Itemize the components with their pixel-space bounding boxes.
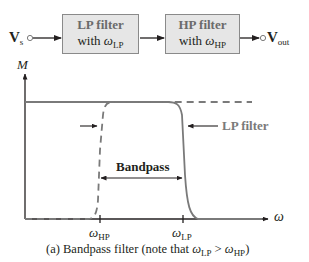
- tick-label-omega-lp: ωLP: [172, 225, 192, 242]
- input-label: Vs: [9, 29, 23, 47]
- figure-caption: (a) Bandpass filter (note that ωLP > ωHP…: [46, 242, 249, 258]
- output-terminal: [260, 35, 265, 40]
- lp-block-title: LP filter: [63, 17, 138, 33]
- lp-filter-annotation: LP filter: [222, 118, 269, 134]
- tick-label-omega-hp: ωHP: [89, 225, 110, 242]
- x-axis-label: ω: [274, 209, 284, 225]
- hp-filter-block: HP filter with ωHP: [165, 14, 240, 54]
- lp-block-param: with ωLP: [63, 33, 138, 53]
- lp-filter-block: LP filter with ωLP: [62, 14, 139, 54]
- input-terminal: [27, 35, 32, 40]
- bandpass-label: Bandpass: [116, 159, 169, 175]
- y-axis-label: M: [17, 57, 28, 73]
- output-label: Vout: [267, 29, 289, 47]
- hp-block-title: HP filter: [166, 17, 239, 33]
- hp-block-param: with ωHP: [166, 33, 239, 53]
